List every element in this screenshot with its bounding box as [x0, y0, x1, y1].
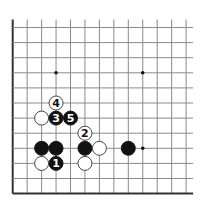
white-stone-icon — [35, 156, 49, 170]
move-number-label: 4 — [52, 97, 60, 110]
white-stone — [78, 156, 92, 170]
black-stone-icon — [49, 141, 63, 155]
move-number-label: 1 — [52, 157, 60, 170]
black-stone — [49, 141, 63, 155]
black-stone — [35, 141, 49, 155]
black-stone-icon — [35, 141, 49, 155]
white-stone-move-2: 2 — [78, 126, 92, 140]
black-stone-move-1: 1 — [49, 156, 63, 170]
white-stone-icon — [35, 111, 49, 125]
black-stone-icon — [78, 141, 92, 155]
move-number-label: 3 — [52, 112, 60, 125]
black-stone — [121, 141, 135, 155]
black-stone-move-3: 3 — [49, 111, 63, 125]
move-number-label: 5 — [67, 112, 75, 125]
white-stone-icon — [92, 141, 106, 155]
black-stone-icon — [121, 141, 135, 155]
move-number-label: 2 — [81, 127, 89, 140]
white-stone-icon — [78, 156, 92, 170]
white-stone — [92, 141, 106, 155]
white-stone-move-4: 4 — [49, 96, 63, 110]
go-board-diagram: 43521 — [0, 0, 204, 206]
star-point-icon — [141, 147, 145, 151]
star-point-icon — [54, 71, 58, 75]
star-point-icon — [141, 71, 145, 75]
black-stone-move-5: 5 — [64, 111, 78, 125]
black-stone — [78, 141, 92, 155]
white-stone — [35, 111, 49, 125]
white-stone — [35, 156, 49, 170]
